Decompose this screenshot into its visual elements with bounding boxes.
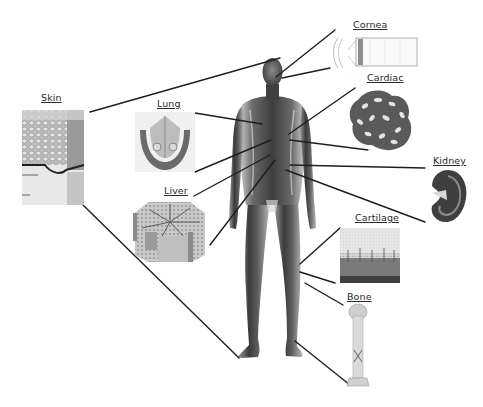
bone-leader-2	[295, 341, 350, 385]
cartilage-leader-1	[300, 228, 340, 264]
cornea-tissue-image	[334, 38, 418, 68]
cartilage-tissue-image	[340, 228, 400, 283]
bone-tissue-image	[347, 304, 369, 386]
label-cornea: Cornea	[353, 19, 387, 30]
liver-tissue-image	[133, 202, 205, 262]
cornea-leader-2	[282, 68, 330, 78]
neck	[266, 84, 279, 100]
label-kidney: Kidney	[433, 155, 466, 166]
left-leg	[238, 200, 270, 358]
label-lung: Lung	[157, 98, 181, 109]
skin-tissue-image	[22, 110, 84, 205]
torso	[240, 96, 305, 205]
diagram-canvas	[0, 0, 483, 407]
kidney-tissue-image	[432, 170, 467, 222]
cartilage-leader-2	[300, 272, 335, 283]
label-skin: Skin	[41, 92, 62, 103]
human-body-figure	[229, 58, 316, 358]
right-leg	[274, 200, 303, 357]
label-cartilage: Cartilage	[355, 212, 399, 223]
label-cardiac: Cardiac	[367, 72, 404, 83]
cornea-leader-1	[276, 30, 335, 77]
label-bone: Bone	[347, 291, 372, 302]
lung-tissue-image	[135, 112, 195, 172]
bone-leader-1	[305, 283, 343, 305]
label-liver: Liver	[164, 185, 188, 196]
tissue-diagram: Skin Lung Liver Cornea Cardiac Kidney Ca…	[0, 0, 483, 407]
cardiac-tissue-image	[350, 90, 411, 150]
